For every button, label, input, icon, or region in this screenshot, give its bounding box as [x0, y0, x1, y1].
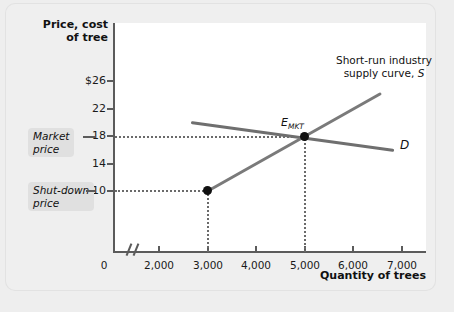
- x-axis-line: [114, 251, 426, 253]
- x-origin-label: 0: [94, 259, 114, 271]
- figure-container: Price, cost of tree $26 22 18 14 10 2,00…: [0, 0, 454, 312]
- y-tick-label-14: 14: [92, 157, 106, 170]
- guide-line-equilibrium-quantity: [304, 136, 306, 252]
- y-tick-18: [107, 135, 114, 137]
- y-axis-line: [113, 23, 115, 253]
- y-tick-10: [107, 190, 114, 192]
- callout-shutdown-price-line2: price: [33, 197, 59, 209]
- equilibrium-point: [300, 132, 309, 141]
- supply-curve-label: Short-run industry supply curve, S: [324, 54, 444, 80]
- y-axis-title-line1: Price, cost: [43, 18, 108, 31]
- x-tick-2000: [158, 246, 160, 253]
- leader-line-market-price: [83, 136, 95, 138]
- equilibrium-label: EMKT: [281, 116, 304, 131]
- x-axis-title: Quantity of trees: [306, 269, 426, 282]
- shutdown-point: [203, 186, 212, 195]
- y-tick-14: [107, 163, 114, 165]
- axis-break-icon: [126, 243, 142, 256]
- chart-panel: Price, cost of tree $26 22 18 14 10 2,00…: [6, 4, 435, 290]
- leader-line-shutdown-price: [86, 190, 95, 192]
- y-axis-title-line2: of tree: [66, 31, 108, 44]
- callout-market-price: Market price: [28, 128, 74, 157]
- callout-shutdown-price-line1: Shut-down: [33, 184, 89, 196]
- y-tick-label-22: 22: [92, 102, 106, 115]
- guide-line-shutdown-price: [115, 190, 208, 192]
- callout-shutdown-price: Shut-down price: [28, 182, 94, 211]
- equilibrium-label-subscript: MKT: [288, 122, 304, 131]
- x-tick-4000: [255, 246, 257, 253]
- demand-curve-label: D: [400, 138, 409, 152]
- supply-curve-label-symbol: S: [418, 67, 425, 79]
- guide-line-market-price: [115, 136, 305, 138]
- callout-market-price-line2: price: [33, 143, 59, 155]
- y-axis-title: Price, cost of tree: [24, 18, 108, 44]
- y-tick-22: [107, 108, 114, 110]
- x-tick-7000: [401, 246, 403, 253]
- x-tick-6000: [352, 246, 354, 253]
- callout-market-price-line1: Market: [33, 130, 69, 142]
- equilibrium-label-main: E: [281, 116, 288, 129]
- y-tick-26: [107, 80, 114, 82]
- guide-line-shutdown-quantity: [207, 190, 209, 252]
- y-tick-label-26: $26: [85, 74, 106, 87]
